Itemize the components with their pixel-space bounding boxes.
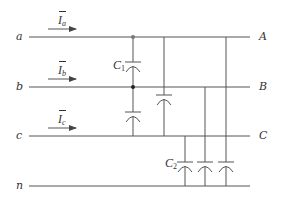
node-label-c: c bbox=[16, 130, 22, 141]
current-label-ic: Ic bbox=[58, 113, 66, 127]
capacitor-ab bbox=[125, 37, 141, 87]
junction-a bbox=[131, 35, 135, 39]
node-label-A: A bbox=[259, 31, 267, 42]
node-label-a: a bbox=[16, 31, 23, 42]
capacitor-an bbox=[218, 37, 234, 186]
node-label-n: n bbox=[16, 180, 23, 191]
node-label-C: C bbox=[259, 130, 267, 141]
capacitor-label-c2: C2 bbox=[165, 157, 177, 171]
junction-b bbox=[131, 85, 135, 89]
current-label-ib: Ib bbox=[58, 64, 66, 78]
current-label-ia: Ia bbox=[58, 14, 66, 28]
capacitor-bc bbox=[125, 87, 141, 136]
circuit-diagram bbox=[0, 0, 281, 199]
capacitor-label-c1: C1 bbox=[113, 59, 125, 73]
node-label-B: B bbox=[259, 81, 267, 92]
capacitor-cn bbox=[177, 136, 193, 186]
node-label-b: b bbox=[16, 81, 23, 92]
